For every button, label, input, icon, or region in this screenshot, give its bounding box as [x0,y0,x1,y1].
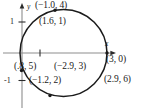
point-label-1: (−1.0, 4) [35,1,67,11]
point-label-6: (3, 0) [106,55,126,65]
y-tick-label-1: 1 [10,18,14,26]
y-axis-label: y [27,3,30,11]
point-label-7: (2.9, 6) [104,75,131,85]
y-tick-label-minus1: -1 [4,77,11,85]
point-marker-bottom [48,94,51,97]
x-axis-label: x [105,40,108,48]
point-label-5: (−1.2, 2) [29,76,61,86]
y-axis-arrowhead [20,3,25,9]
point-label-3: (.8, 5) [14,62,36,72]
point-label-4: (−2.9, 3) [54,62,86,72]
point-label-2: (1.6, 1) [39,17,66,27]
figure-canvas: y x 1 -1 (−1.0, 4) (1.6, 1) (.8, 5) (−2.… [0,0,141,110]
